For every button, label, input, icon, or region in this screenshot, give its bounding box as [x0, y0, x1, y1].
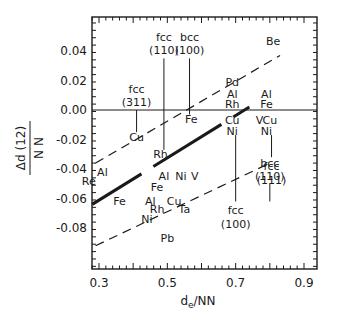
- x-tick-label: 0.7: [226, 276, 245, 290]
- element-label: Ta: [178, 203, 191, 216]
- x-tick-label: 0.3: [89, 276, 108, 290]
- trend-lines: [92, 55, 280, 245]
- y-axis-title-numerator: Δd (12): [14, 126, 28, 170]
- y-tick-label: 0.00: [60, 103, 87, 117]
- x-tick-label: 0.5: [158, 276, 177, 290]
- facet-lattice-label: fcc: [228, 204, 244, 217]
- facet-miller-index-label: (100): [175, 44, 205, 57]
- element-label: Ni: [141, 213, 152, 226]
- facet-lattice-label: bcc: [180, 31, 199, 44]
- facet-miller-index-label: (100): [221, 218, 251, 231]
- upper-bound-line: [96, 55, 281, 163]
- element-label: V: [191, 170, 199, 183]
- x-axis-title: de/NN: [180, 294, 215, 310]
- element-label: Rh: [225, 98, 240, 111]
- y-axis-title: Δd (12)N N: [14, 121, 46, 175]
- element-label: Ni: [261, 125, 272, 138]
- element-label: Fe: [260, 98, 273, 111]
- element-label: Fe: [113, 195, 126, 208]
- element-label: Fe: [185, 113, 198, 126]
- element-label: Ni: [227, 125, 238, 138]
- element-label: Ni: [175, 170, 186, 183]
- element-labels: BePdAlRhAlFeFeCuCuNiVCuNiRhAlAlNiVReFeFe…: [82, 35, 281, 246]
- element-label: Be: [266, 35, 281, 48]
- element-label: Al: [97, 166, 108, 179]
- facet-lattice-label: bcc: [260, 157, 279, 170]
- y-tick-label: -0.08: [56, 221, 87, 235]
- y-tick-label: 0.04: [60, 44, 87, 58]
- y-tick-label: -0.06: [56, 192, 87, 206]
- element-label: Cu: [129, 131, 144, 144]
- facet-miller-index-label: (311): [122, 96, 152, 109]
- element-label: Re: [82, 175, 96, 188]
- facet-lattice-label: fcc: [156, 31, 172, 44]
- element-label: Rh: [153, 148, 168, 161]
- facet-miller-index-label: (110): [255, 170, 285, 183]
- x-tick-label: 0.9: [294, 276, 313, 290]
- y-tick-label: -0.04: [56, 162, 87, 176]
- chart: fcc(311)fcc(110)bcc(100)fcc(100)fcc(111)…: [0, 0, 341, 317]
- element-label: Pb: [161, 232, 175, 245]
- y-tick-label: 0.02: [60, 74, 87, 88]
- facet-lattice-label: fcc: [129, 83, 145, 96]
- y-tick-label: -0.02: [56, 133, 87, 147]
- element-label: Fe: [151, 181, 164, 194]
- y-axis-title-denominator: N N: [32, 137, 46, 159]
